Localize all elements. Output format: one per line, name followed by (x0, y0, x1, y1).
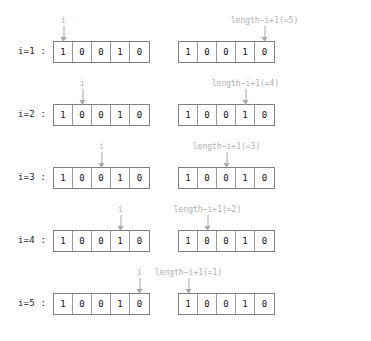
array-cell: 0 (255, 42, 274, 62)
array-cell: 0 (73, 294, 92, 314)
down-arrow-icon (78, 89, 87, 105)
array-cell: 1 (179, 42, 198, 62)
array-cell: 1 (111, 231, 130, 251)
array-index-diagram: i=1 :10010i10010length−i+1(=5)i=2 :10010… (0, 0, 371, 341)
array-cell: 0 (73, 105, 92, 125)
array-cell: 1 (54, 231, 73, 251)
down-arrow-icon (97, 152, 106, 168)
array-cell: 0 (130, 42, 149, 62)
array-cell: 1 (54, 168, 73, 188)
array-cell: 0 (130, 105, 149, 125)
array-cell: 0 (217, 105, 236, 125)
array-cell: 1 (236, 105, 255, 125)
down-arrow-icon (241, 89, 250, 105)
index-pointer-left: i (73, 77, 92, 105)
array-cell: 0 (255, 294, 274, 314)
down-arrow-icon (222, 152, 231, 168)
pointer-label: i (99, 142, 104, 151)
bit-array-left: 10010 (53, 293, 150, 315)
array-cell: 1 (179, 168, 198, 188)
array-cell: 1 (236, 231, 255, 251)
pointer-label: i (80, 79, 85, 88)
pointer-label: length−i+1(=3) (193, 142, 260, 151)
array-cell: 1 (54, 42, 73, 62)
row-iteration-label: i=5 : (18, 298, 46, 308)
bit-array-left: 10010 (53, 41, 150, 63)
arrow-shaft (139, 278, 140, 290)
row-iteration-label: i=2 : (18, 109, 46, 119)
row-iteration-label: i=3 : (18, 172, 46, 182)
down-arrow-icon (59, 26, 68, 42)
index-pointer-right: length−i+1(=2) (198, 203, 217, 231)
pointer-label: length−i+1(=5) (231, 16, 298, 25)
row-iteration-label: i=1 : (18, 46, 46, 56)
array-cell: 0 (255, 105, 274, 125)
array-cell: 0 (73, 42, 92, 62)
bit-array-left: 10010 (53, 230, 150, 252)
down-arrow-icon (135, 278, 144, 294)
arrow-shaft (188, 278, 189, 290)
array-cell: 0 (198, 42, 217, 62)
bit-array-right: 10010 (178, 104, 275, 126)
array-cell: 1 (111, 42, 130, 62)
array-cell: 0 (217, 168, 236, 188)
diagram-row: i=5 :10010i10010length−i+1(=1) (0, 264, 371, 327)
arrow-shaft (63, 26, 64, 38)
index-pointer-right: length−i+1(=4) (236, 77, 255, 105)
index-pointer-left: i (130, 266, 149, 294)
array-cell: 1 (236, 294, 255, 314)
array-cell: 0 (92, 294, 111, 314)
diagram-row: i=4 :10010i10010length−i+1(=2) (0, 201, 371, 264)
bit-array-right: 10010 (178, 293, 275, 315)
array-cell: 0 (217, 231, 236, 251)
bit-array-right: 10010 (178, 230, 275, 252)
bit-array-right: 10010 (178, 167, 275, 189)
index-pointer-left: i (92, 140, 111, 168)
array-cell: 1 (179, 294, 198, 314)
bit-array-right: 10010 (178, 41, 275, 63)
array-cell: 1 (179, 231, 198, 251)
pointer-label: length−i+1(=1) (155, 268, 222, 277)
array-cell: 1 (236, 42, 255, 62)
array-cell: 0 (198, 231, 217, 251)
diagram-row: i=1 :10010i10010length−i+1(=5) (0, 12, 371, 75)
array-cell: 1 (179, 105, 198, 125)
array-cell: 0 (217, 294, 236, 314)
pointer-label: i (61, 16, 66, 25)
array-cell: 0 (255, 231, 274, 251)
array-cell: 0 (198, 105, 217, 125)
index-pointer-right: length−i+1(=3) (217, 140, 236, 168)
array-cell: 0 (217, 42, 236, 62)
array-cell: 0 (130, 231, 149, 251)
diagram-row: i=3 :10010i10010length−i+1(=3) (0, 138, 371, 201)
pointer-label: length−i+1(=4) (212, 79, 279, 88)
pointer-label: i (137, 268, 142, 277)
array-cell: 0 (198, 294, 217, 314)
pointer-label: i (118, 205, 123, 214)
array-cell: 0 (73, 168, 92, 188)
arrow-shaft (101, 152, 102, 164)
arrow-shaft (245, 89, 246, 101)
array-cell: 1 (236, 168, 255, 188)
arrow-shaft (226, 152, 227, 164)
index-pointer-left: i (54, 14, 73, 42)
diagram-row: i=2 :10010i10010length−i+1(=4) (0, 75, 371, 138)
row-iteration-label: i=4 : (18, 235, 46, 245)
array-cell: 0 (130, 168, 149, 188)
arrow-shaft (207, 215, 208, 227)
down-arrow-icon (116, 215, 125, 231)
arrow-shaft (82, 89, 83, 101)
array-cell: 1 (111, 168, 130, 188)
array-cell: 0 (92, 168, 111, 188)
arrow-shaft (264, 26, 265, 38)
array-cell: 0 (92, 231, 111, 251)
down-arrow-icon (203, 215, 212, 231)
array-cell: 0 (92, 105, 111, 125)
bit-array-left: 10010 (53, 167, 150, 189)
index-pointer-right: length−i+1(=1) (179, 266, 198, 294)
array-cell: 1 (54, 105, 73, 125)
array-cell: 0 (255, 168, 274, 188)
array-cell: 0 (130, 294, 149, 314)
array-cell: 0 (92, 42, 111, 62)
pointer-label: length−i+1(=2) (174, 205, 241, 214)
